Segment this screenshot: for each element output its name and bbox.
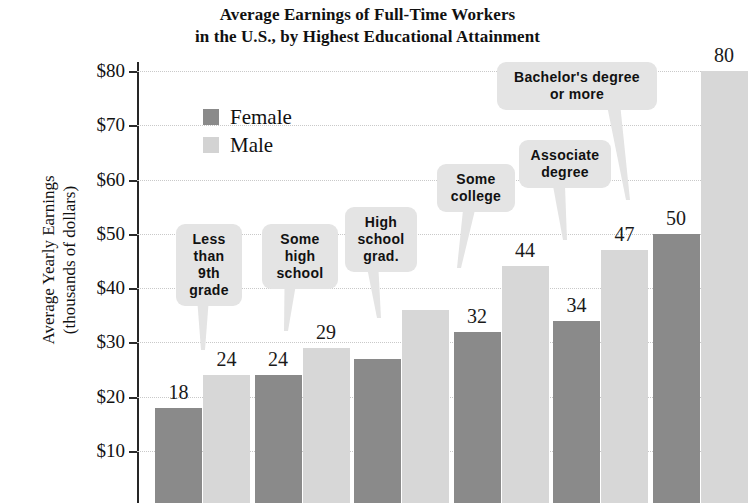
callout-2-line-2: grad. bbox=[353, 248, 409, 265]
data-label-male-3: 44 bbox=[496, 240, 555, 260]
legend-label-male: Male bbox=[230, 133, 273, 158]
callout-1: Somehighschool bbox=[262, 224, 338, 289]
callout-4-line-1: degree bbox=[527, 164, 603, 181]
legend: Female Male bbox=[203, 103, 292, 159]
callout-2-line-0: High bbox=[353, 214, 409, 231]
legend-item-female: Female bbox=[203, 103, 292, 131]
callout-3-line-0: Some bbox=[445, 171, 507, 188]
chart-title-line-1: Average Earnings of Full-Time Workers bbox=[0, 4, 735, 26]
legend-label-female: Female bbox=[230, 105, 292, 130]
callout-2-line-1: school bbox=[353, 231, 409, 248]
data-label-female-0: 18 bbox=[149, 382, 208, 402]
bar-female-1 bbox=[255, 375, 302, 503]
data-label-female-3: 32 bbox=[448, 306, 507, 326]
callout-0-line-3: grade bbox=[184, 282, 234, 299]
legend-swatch-female bbox=[203, 109, 219, 125]
legend-item-male: Male bbox=[203, 131, 292, 159]
bar-male-5 bbox=[701, 71, 748, 503]
y-tick-20 bbox=[129, 397, 137, 399]
callout-5-line-0: Bachelor's degree bbox=[505, 69, 649, 86]
y-tick-80 bbox=[129, 71, 137, 73]
data-label-male-4: 47 bbox=[595, 224, 654, 244]
y-tick-50 bbox=[129, 234, 137, 236]
y-tick-label-30: $30 bbox=[53, 332, 125, 351]
bar-female-3 bbox=[454, 332, 501, 503]
bar-male-2 bbox=[402, 310, 449, 503]
bar-female-5 bbox=[653, 234, 700, 503]
bar-male-3 bbox=[502, 266, 549, 503]
callout-5: Bachelor's degreeor more bbox=[497, 62, 657, 110]
chart-title-line-2: in the U.S., by Highest Educational Atta… bbox=[0, 26, 735, 48]
chart-title: Average Earnings of Full-Time Workers in… bbox=[0, 4, 735, 48]
y-tick-label-10: $10 bbox=[53, 441, 125, 460]
callout-0: Lessthan9thgrade bbox=[176, 224, 242, 306]
callout-2: Highschoolgrad. bbox=[345, 207, 417, 272]
data-label-female-4: 34 bbox=[547, 295, 606, 315]
bar-male-0 bbox=[203, 375, 250, 503]
y-tick-label-40: $40 bbox=[53, 278, 125, 297]
y-tick-label-20: $20 bbox=[53, 387, 125, 406]
legend-swatch-male bbox=[203, 137, 219, 153]
data-label-male-5: 80 bbox=[695, 45, 752, 65]
bar-female-2 bbox=[354, 359, 401, 503]
y-tick-10 bbox=[129, 451, 137, 453]
data-label-male-1: 29 bbox=[297, 322, 356, 342]
y-tick-label-50: $50 bbox=[53, 224, 125, 243]
y-tick-label-80: $80 bbox=[53, 61, 125, 80]
callout-1-line-2: school bbox=[270, 265, 330, 282]
callout-4: Associatedegree bbox=[519, 140, 611, 188]
bar-female-0 bbox=[155, 408, 202, 503]
y-tick-40 bbox=[129, 288, 137, 290]
y-tick-70 bbox=[129, 125, 137, 127]
y-tick-60 bbox=[129, 180, 137, 182]
data-label-female-5: 50 bbox=[647, 208, 706, 228]
callout-3-line-1: college bbox=[445, 188, 507, 205]
callout-3: Somecollege bbox=[437, 164, 515, 212]
y-tick-30 bbox=[129, 342, 137, 344]
callout-0-line-1: than bbox=[184, 248, 234, 265]
y-tick-label-60: $60 bbox=[53, 170, 125, 189]
callout-0-line-2: 9th bbox=[184, 265, 234, 282]
callout-1-line-1: high bbox=[270, 248, 330, 265]
gridline-60 bbox=[137, 180, 735, 181]
callout-0-line-0: Less bbox=[184, 231, 234, 248]
callout-5-line-1: or more bbox=[505, 86, 649, 103]
bar-male-4 bbox=[601, 250, 648, 503]
data-label-female-1: 24 bbox=[249, 349, 308, 369]
bar-male-1 bbox=[303, 348, 350, 503]
callout-1-line-0: Some bbox=[270, 231, 330, 248]
data-label-male-0: 24 bbox=[197, 349, 256, 369]
bar-female-4 bbox=[553, 321, 600, 503]
callout-4-line-0: Associate bbox=[527, 147, 603, 164]
y-tick-label-70: $70 bbox=[53, 115, 125, 134]
